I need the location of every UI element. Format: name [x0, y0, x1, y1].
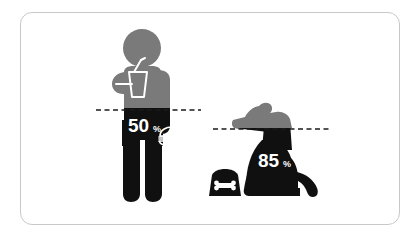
human-leg-gap: [140, 140, 145, 202]
dog-bowl-icon: [209, 169, 241, 196]
human-percent-value: 50: [128, 115, 149, 136]
infographic-canvas: 50 %: [0, 0, 420, 239]
dog-percent-sign: %: [283, 159, 291, 169]
dog-figure: 85 %: [209, 103, 329, 197]
human-figure: 50 %: [96, 29, 201, 202]
dog-percent-value: 85: [258, 150, 280, 171]
human-percent-sign: %: [153, 124, 161, 134]
infographic-stage: 50 %: [0, 0, 420, 239]
